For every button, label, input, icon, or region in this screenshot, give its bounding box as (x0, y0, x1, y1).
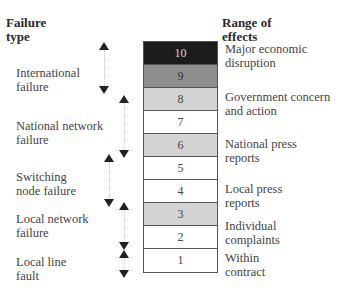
failure-type-header: Failure type (6, 16, 46, 44)
scale-level-8: 8 (144, 88, 217, 111)
effect-government-concern: Government concern and action (225, 90, 330, 118)
scale-level-10: 10 (144, 42, 217, 65)
label-line: Within (225, 251, 265, 265)
label-line: Individual (225, 219, 280, 233)
effect-local-press: Local press reports (225, 182, 282, 210)
failure-type-international: International failure (16, 66, 80, 94)
arrow-down-icon (119, 242, 129, 250)
scale-level-2: 2 (144, 226, 217, 249)
scale-level-7: 7 (144, 111, 217, 134)
label-line: disruption (225, 56, 307, 70)
label-line: fault (16, 269, 66, 283)
label-line: node failure (16, 184, 76, 198)
label-line: failure (16, 226, 89, 240)
arrow-up-icon (119, 95, 129, 103)
scale-level-4: 4 (144, 180, 217, 203)
arrow-down-icon (119, 150, 129, 158)
failure-type-national-network: National network failure (16, 119, 103, 147)
effect-major-economic-disruption: Major economic disruption (225, 42, 307, 70)
effect-national-press: National press reports (225, 137, 297, 165)
range-line (124, 103, 125, 150)
label-line: National network (16, 119, 103, 133)
label-line: contract (225, 265, 265, 279)
failure-type-switching-node: Switching node failure (16, 170, 76, 198)
arrow-down-icon (119, 270, 129, 278)
failure-type-local-network: Local network failure (16, 212, 89, 240)
header-line: type (6, 30, 46, 44)
arrow-up-icon (99, 42, 109, 50)
severity-scale: 10 9 8 7 6 5 4 3 2 1 (143, 41, 218, 273)
label-line: failure (16, 80, 80, 94)
range-line (109, 162, 110, 200)
scale-level-3: 3 (144, 203, 217, 226)
range-line (104, 50, 105, 86)
arrow-up-icon (119, 250, 129, 258)
label-line: reports (225, 196, 282, 210)
label-line: Government concern (225, 90, 330, 104)
scale-level-1: 1 (144, 249, 217, 272)
effect-within-contract: Within contract (225, 251, 265, 279)
range-line (124, 210, 125, 242)
label-line: Switching (16, 170, 76, 184)
label-line: Local press (225, 182, 282, 196)
range-of-effects-header: Range of effects (222, 16, 271, 44)
label-line: International (16, 66, 80, 80)
label-line: Local network (16, 212, 89, 226)
arrow-up-icon (104, 154, 114, 162)
header-line: Failure (6, 16, 46, 30)
label-line: and action (225, 104, 330, 118)
label-line: National press (225, 137, 297, 151)
label-line: Local line (16, 255, 66, 269)
scale-level-5: 5 (144, 157, 217, 180)
arrow-up-icon (119, 202, 129, 210)
scale-level-6: 6 (144, 134, 217, 157)
label-line: reports (225, 151, 297, 165)
scale-level-9: 9 (144, 65, 217, 88)
arrow-down-icon (104, 199, 114, 207)
range-line (124, 258, 125, 270)
header-line: Range of (222, 16, 271, 30)
failure-type-local-line: Local line fault (16, 255, 66, 283)
effect-individual-complaints: Individual complaints (225, 219, 280, 247)
label-line: Major economic (225, 42, 307, 56)
arrow-down-icon (99, 86, 109, 94)
label-line: complaints (225, 233, 280, 247)
label-line: failure (16, 133, 103, 147)
